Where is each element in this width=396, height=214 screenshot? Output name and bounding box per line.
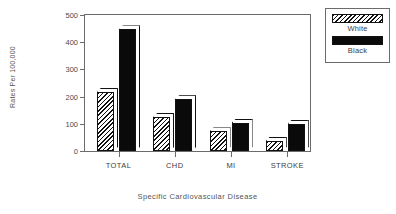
legend-item-white: White	[332, 14, 383, 33]
y-tick-label: 100	[65, 119, 78, 128]
y-tick-mark	[80, 15, 85, 16]
y-tick-label: 300	[65, 65, 78, 74]
plot-inner: 0100200300400500TOTALCHDMISTROKE	[85, 15, 310, 151]
bar-chd-white	[153, 113, 174, 151]
y-tick-label: 400	[65, 38, 78, 47]
chart-figure: Rates Per 100,000 0100200300400500TOTALC…	[0, 0, 396, 214]
bar-face	[210, 131, 227, 151]
plot-area: 0100200300400500TOTALCHDMISTROKE	[84, 14, 311, 152]
y-tick-label: 0	[74, 147, 78, 156]
bar-mi-white	[210, 127, 231, 151]
bar-face	[175, 99, 192, 151]
y-axis-title: Rates Per 100,000	[9, 37, 23, 117]
legend-label-white: White	[332, 24, 383, 33]
x-tick-mark	[287, 151, 288, 157]
bar-total-black	[119, 25, 140, 151]
bar-face	[119, 29, 136, 151]
y-tick-mark	[80, 97, 85, 98]
bar-total-white	[97, 88, 118, 151]
bar-mi-black	[232, 119, 253, 151]
legend-item-black: Black	[332, 36, 383, 55]
bar-chd-black	[175, 95, 196, 151]
bar-face	[266, 141, 283, 151]
x-tick-mark	[231, 151, 232, 157]
legend-label-black: Black	[332, 46, 383, 55]
legend-swatch-white	[332, 14, 383, 23]
bar-stroke-black	[288, 120, 309, 151]
x-tick-label-mi: MI	[226, 161, 235, 170]
y-tick-mark	[80, 69, 85, 70]
x-tick-mark	[119, 151, 120, 157]
y-tick-mark	[80, 42, 85, 43]
bar-face	[232, 123, 249, 151]
y-tick-label: 500	[65, 11, 78, 20]
y-tick-mark	[80, 151, 85, 152]
x-tick-mark	[175, 151, 176, 157]
bar-stroke-white	[266, 137, 287, 151]
legend-swatch-black	[332, 36, 383, 45]
y-tick-mark	[80, 124, 85, 125]
bar-face	[288, 124, 305, 151]
chart-legend: White Black	[325, 8, 390, 63]
bar-face	[153, 117, 170, 151]
x-tick-label-total: TOTAL	[106, 161, 131, 170]
bar-face	[97, 92, 114, 151]
x-axis-title: Specific Cardiovascular Disease	[84, 192, 311, 201]
x-tick-label-chd: CHD	[166, 161, 183, 170]
y-tick-label: 200	[65, 92, 78, 101]
x-tick-label-stroke: STROKE	[271, 161, 304, 170]
